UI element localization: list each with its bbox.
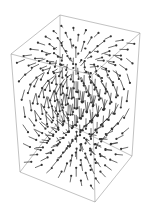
- arrow-head-icon: [41, 87, 43, 89]
- arrow-head-icon: [90, 72, 92, 74]
- arrow-head-icon: [133, 43, 135, 45]
- vector-arrow: [108, 45, 116, 47]
- arrow-head-icon: [67, 145, 69, 147]
- arrow-head-icon: [56, 115, 58, 117]
- vector-arrow: [85, 100, 86, 112]
- box-edge: [11, 15, 60, 54]
- vector-arrow: [82, 92, 83, 103]
- arrow-head-icon: [46, 142, 48, 144]
- arrow-head-icon: [104, 108, 106, 110]
- vector-arrow: [96, 103, 98, 115]
- arrow-head-icon: [70, 78, 72, 80]
- arrow-head-icon: [60, 25, 62, 27]
- arrow-head-icon: [42, 69, 44, 71]
- vector-arrow: [79, 90, 80, 99]
- vector-arrow: [70, 105, 71, 115]
- vector-arrow: [101, 51, 109, 54]
- arrow-head-icon: [90, 169, 92, 171]
- arrow-head-icon: [110, 101, 112, 103]
- box-edge: [11, 54, 92, 75]
- arrow-head-icon: [29, 84, 31, 86]
- arrow-head-icon: [33, 85, 35, 87]
- arrow-head-icon: [61, 77, 63, 79]
- vector-arrow: [29, 63, 36, 66]
- arrow-head-icon: [30, 161, 32, 163]
- vector-arrow: [80, 91, 82, 102]
- arrow-head-icon: [99, 171, 101, 173]
- arrow-head-icon: [115, 138, 117, 140]
- arrow-head-icon: [56, 144, 58, 146]
- vector-arrow: [36, 94, 37, 104]
- arrow-head-icon: [66, 162, 68, 164]
- arrow-head-icon: [120, 106, 122, 108]
- arrow-head-icon: [95, 147, 97, 149]
- vector-arrow: [107, 76, 114, 82]
- arrow-head-icon: [62, 107, 64, 109]
- vector-arrow: [73, 104, 74, 112]
- vector-arrow: [40, 142, 47, 143]
- arrow-head-icon: [114, 64, 116, 66]
- arrow-head-icon: [73, 87, 75, 89]
- vector-arrow: [109, 109, 110, 120]
- arrow-head-icon: [126, 100, 128, 102]
- arrow-head-icon: [108, 70, 110, 72]
- arrow-head-icon: [104, 92, 106, 94]
- arrow-head-icon: [47, 156, 49, 158]
- arrow-head-icon: [107, 74, 109, 76]
- vector-arrow: [118, 115, 123, 123]
- vector-arrow: [30, 100, 32, 110]
- arrow-head-icon: [45, 112, 47, 114]
- arrow-head-icon: [104, 164, 106, 166]
- arrow-head-icon: [121, 132, 123, 134]
- vector-arrow: [30, 155, 38, 156]
- arrow-head-icon: [97, 75, 99, 77]
- vector-arrow: [112, 122, 118, 129]
- arrow-head-icon: [131, 62, 133, 64]
- arrow-head-icon: [93, 64, 95, 66]
- arrow-head-icon: [94, 158, 96, 160]
- arrow-head-icon: [60, 94, 62, 96]
- arrow-head-icon: [52, 71, 54, 73]
- vector-arrow: [100, 172, 105, 178]
- arrow-head-icon: [95, 162, 97, 164]
- arrow-head-icon: [90, 56, 92, 58]
- arrow-head-icon: [84, 66, 86, 68]
- arrow-head-icon: [34, 57, 36, 59]
- arrow-head-icon: [41, 132, 43, 134]
- arrow-head-icon: [113, 61, 115, 63]
- arrow-head-icon: [108, 50, 110, 52]
- vector-arrow: [121, 97, 122, 108]
- arrow-head-icon: [99, 97, 101, 99]
- vector-arrow: [87, 37, 91, 44]
- arrow-head-icon: [89, 149, 91, 151]
- arrow-head-icon: [49, 99, 51, 101]
- vector-arrow: [38, 43, 45, 45]
- arrow-head-icon: [90, 138, 92, 140]
- arrow-head-icon: [84, 152, 86, 154]
- vector-field-plot: [0, 0, 145, 213]
- arrow-head-icon: [97, 51, 99, 53]
- arrow-head-icon: [74, 124, 76, 126]
- arrow-head-icon: [80, 159, 82, 161]
- arrow-head-icon: [38, 135, 40, 137]
- arrow-head-icon: [49, 138, 51, 140]
- arrow-head-icon: [62, 92, 64, 94]
- arrow-head-icon: [118, 78, 120, 80]
- vector-arrow: [109, 77, 113, 85]
- arrow-head-icon: [69, 145, 71, 147]
- vector-arrow: [124, 109, 129, 118]
- arrow-head-icon: [123, 117, 125, 119]
- arrow-head-icon: [65, 32, 67, 34]
- vector-arrow: [90, 66, 98, 67]
- arrow-head-icon: [59, 63, 61, 65]
- box-edge: [132, 33, 140, 156]
- arrow-head-icon: [79, 164, 81, 166]
- arrow-head-icon: [48, 43, 50, 45]
- arrow-head-icon: [21, 99, 23, 101]
- vector-arrow: [90, 110, 91, 122]
- vector-arrow: [116, 135, 123, 139]
- arrow-head-icon: [75, 151, 77, 153]
- arrow-head-icon: [90, 185, 92, 187]
- arrow-head-icon: [90, 154, 92, 156]
- arrow-head-icon: [49, 62, 51, 64]
